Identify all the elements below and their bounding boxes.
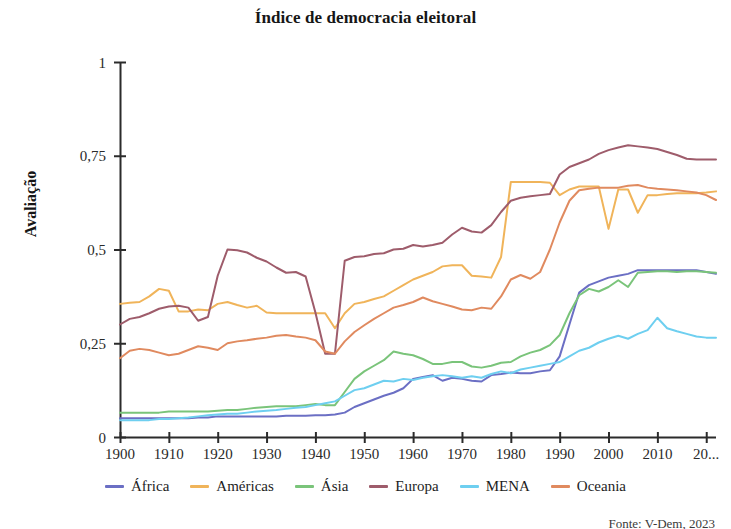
y-tick-label: 1 xyxy=(99,55,107,71)
legend-item-mena[interactable]: MENA xyxy=(460,478,530,495)
legend-label: Ásia xyxy=(321,478,349,495)
x-tick-label: 1950 xyxy=(349,446,379,462)
series-line-oceania xyxy=(120,185,716,358)
series-line-frica xyxy=(120,270,716,418)
legend-label: Américas xyxy=(216,478,273,495)
chart-legend: ÁfricaAméricasÁsiaEuropaMENAOceania xyxy=(0,478,731,495)
legend-swatch-icon xyxy=(295,485,314,488)
legend-item-sia[interactable]: Ásia xyxy=(295,478,349,495)
y-tick-label: 0,75 xyxy=(80,148,106,164)
legend-item-amricas[interactable]: Américas xyxy=(190,478,273,495)
legend-swatch-icon xyxy=(190,485,209,488)
legend-swatch-icon xyxy=(551,485,570,488)
x-tick-label: 1930 xyxy=(252,446,282,462)
x-tick-label: 1920 xyxy=(203,446,233,462)
plot-area: 00,250,50,751 19001910192019301940195019… xyxy=(0,0,731,470)
series-line-europa xyxy=(120,145,716,354)
legend-label: Europa xyxy=(395,478,438,495)
x-tick-label: 1940 xyxy=(300,446,330,462)
data-series-group xyxy=(120,145,716,420)
y-axis-ticks: 00,250,50,751 xyxy=(80,55,126,446)
source-note: Fonte: V-Dem, 2023 xyxy=(608,516,715,529)
legend-swatch-icon xyxy=(460,485,479,488)
x-tick-label: 1900 xyxy=(105,446,135,462)
x-tick-label: 2010 xyxy=(642,446,672,462)
legend-label: Oceania xyxy=(577,478,626,495)
series-line-amricas xyxy=(120,182,716,328)
legend-item-oceania[interactable]: Oceania xyxy=(551,478,626,495)
x-tick-label: 2000 xyxy=(594,446,624,462)
y-tick-label: 0,25 xyxy=(80,336,106,352)
x-tick-label: 1970 xyxy=(447,446,477,462)
legend-swatch-icon xyxy=(369,485,388,488)
legend-item-frica[interactable]: África xyxy=(105,478,169,495)
y-tick-label: 0,5 xyxy=(87,242,106,258)
x-tick-label: 20... xyxy=(693,446,719,462)
legend-label: MENA xyxy=(486,478,530,495)
y-tick-label: 0 xyxy=(99,430,107,446)
legend-item-europa[interactable]: Europa xyxy=(369,478,438,495)
chart-container: Índice de democracia eleitoral Avaliação… xyxy=(0,0,731,529)
x-tick-label: 1990 xyxy=(545,446,575,462)
x-tick-label: 1980 xyxy=(496,446,526,462)
legend-swatch-icon xyxy=(105,485,124,488)
legend-label: África xyxy=(131,478,169,495)
x-tick-label: 1910 xyxy=(154,446,184,462)
series-line-sia xyxy=(120,271,716,412)
x-tick-label: 1960 xyxy=(398,446,428,462)
series-line-mena xyxy=(120,318,716,420)
